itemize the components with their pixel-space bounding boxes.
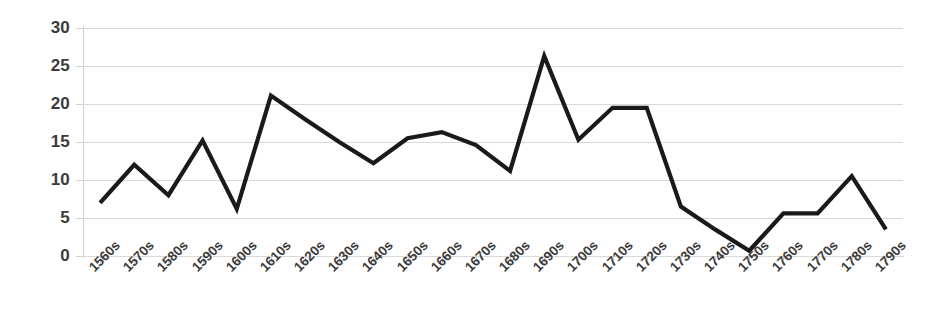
- y-axis-tick: [76, 66, 83, 67]
- y-axis-tick-label: 0: [60, 246, 70, 266]
- y-axis-tick: [76, 104, 83, 105]
- y-axis-tick-label: 5: [60, 208, 70, 228]
- line-chart: 051015202530 1560s1570s1580s1590s1600s16…: [0, 0, 944, 323]
- y-axis-tick: [76, 180, 83, 181]
- y-axis-tick-label: 30: [51, 18, 70, 38]
- y-axis-tick-label: 10: [51, 170, 70, 190]
- data-line-series: [83, 28, 903, 256]
- y-axis-tick: [76, 256, 83, 257]
- y-axis-tick-label: 25: [51, 56, 70, 76]
- y-axis-tick-label: 20: [51, 94, 70, 114]
- y-axis-tick: [76, 28, 83, 29]
- y-axis-tick: [76, 218, 83, 219]
- y-axis-tick: [76, 142, 83, 143]
- y-axis-tick-label: 15: [51, 132, 70, 152]
- series-polyline: [100, 56, 886, 251]
- x-axis-labels: 1560s1570s1580s1590s1600s1610s1620s1630s…: [0, 264, 944, 323]
- plot-area: [83, 28, 903, 256]
